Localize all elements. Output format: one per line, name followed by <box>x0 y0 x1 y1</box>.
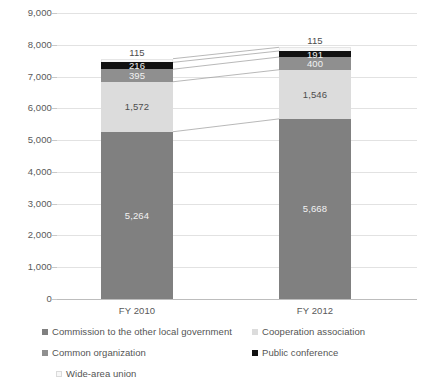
legend-item-label: Commission to the other local government <box>52 326 232 337</box>
legend-row: Common organizationPublic conference <box>42 342 424 363</box>
legend-swatch-icon <box>56 371 62 377</box>
legend-swatch-icon <box>42 329 48 335</box>
bar-segment-value-label: 1,546 <box>279 89 351 100</box>
stacked-bar-chart: 01,0002,0003,0004,0005,0006,0007,0008,00… <box>0 0 424 380</box>
legend-swatch-icon <box>252 329 258 335</box>
legend-item[interactable]: Public conference <box>252 342 338 363</box>
legend-item-label: Public conference <box>262 347 338 358</box>
bar-segment-value-label: 115 <box>101 47 173 58</box>
bar-segment[interactable] <box>101 59 173 63</box>
x-axis-category-label: FY 2010 <box>87 305 187 316</box>
legend-item-label: Common organization <box>52 347 146 358</box>
legend-item[interactable]: Common organization <box>42 342 146 363</box>
y-axis-tick-label: 3,000 <box>0 199 52 209</box>
y-axis-tick-label: 1,000 <box>0 262 52 272</box>
legend-item[interactable]: Commission to the other local government <box>42 321 232 342</box>
legend-item[interactable]: Cooperation association <box>252 321 365 342</box>
legend-row: Wide-area union <box>42 363 424 380</box>
bar-segment-value-label: 5,668 <box>279 203 351 214</box>
y-axis-tick-label: 0 <box>0 294 52 304</box>
y-axis-tick-label: 6,000 <box>0 103 52 113</box>
y-axis-tick-label: 2,000 <box>0 230 52 240</box>
legend-swatch-icon <box>42 350 48 356</box>
y-axis-tick-label: 8,000 <box>0 40 52 50</box>
legend-item-label: Wide-area union <box>66 368 136 379</box>
legend-item-label: Cooperation association <box>262 326 365 337</box>
bar-segment-value-label: 1,572 <box>101 101 173 112</box>
bar-segment-value-label: 115 <box>279 35 351 46</box>
gridline <box>57 299 417 300</box>
legend-item[interactable]: Wide-area union <box>56 363 136 380</box>
bar-fy-2012[interactable]: 5,6681,546400191115 <box>279 13 351 299</box>
y-axis-tick-label: 5,000 <box>0 135 52 145</box>
bar-segment-value-label: 400 <box>279 58 351 69</box>
bar-fy-2010[interactable]: 5,2641,572395216115 <box>101 13 173 299</box>
legend-swatch-icon <box>252 350 258 356</box>
x-axis-category-label: FY 2012 <box>265 305 365 316</box>
y-axis-tick <box>52 299 57 300</box>
y-axis-tick-label: 7,000 <box>0 72 52 82</box>
bars-layer: 5,2641,5723952161155,6681,546400191115 <box>57 13 417 299</box>
bar-segment[interactable] <box>279 47 351 51</box>
legend-row: Commission to the other local government… <box>42 321 424 342</box>
y-axis-tick-label: 9,000 <box>0 8 52 18</box>
bar-segment-value-label: 5,264 <box>101 210 173 221</box>
legend: Commission to the other local government… <box>42 321 424 380</box>
y-axis-tick-label: 4,000 <box>0 167 52 177</box>
bar-segment-value-label: 395 <box>101 70 173 81</box>
